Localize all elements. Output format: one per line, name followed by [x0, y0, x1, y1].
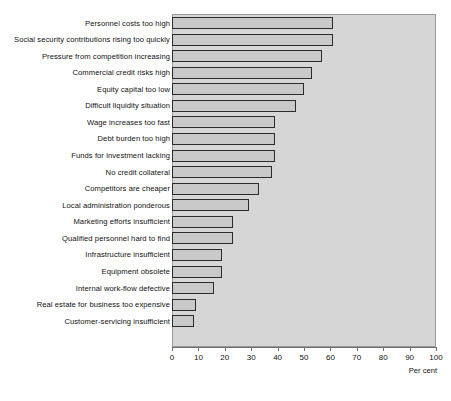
bar-category-label: Local administration ponderous: [2, 201, 170, 210]
bar-row: Wage increases too fast: [0, 114, 451, 130]
bar-row: Funds for investment lacking: [0, 148, 451, 164]
bar-category-label: Pressure from competition increasing: [2, 52, 170, 61]
bar-row: Real estate for business too expensive: [0, 297, 451, 313]
x-axis-tick-label: 40: [273, 353, 282, 362]
bar-rows: Personnel costs too highSocial security …: [0, 14, 451, 347]
x-axis-tick: [357, 347, 358, 351]
bar-row: Equity capital too low: [0, 81, 451, 97]
bar-category-label: Internal work-flow defective: [2, 284, 170, 293]
bar-chart: Personnel costs too highSocial security …: [0, 0, 451, 401]
bar-row: Pressure from competition increasing: [0, 48, 451, 64]
bar-row: Social security contributions rising too…: [0, 32, 451, 48]
bar: [172, 83, 304, 95]
bar: [172, 67, 312, 79]
bar-row: Marketing efforts insufficient: [0, 214, 451, 230]
bar-category-label: Competitors are cheaper: [2, 184, 170, 193]
bar: [172, 232, 233, 244]
bar-category-label: Infrastructure insufficient: [2, 250, 170, 259]
bar: [172, 249, 222, 261]
x-axis-tick: [383, 347, 384, 351]
bar: [172, 282, 214, 294]
x-axis-tick-label: 60: [326, 353, 335, 362]
x-axis-tick: [436, 347, 437, 351]
x-axis-tick-label: 70: [352, 353, 361, 362]
x-axis-title: Per cent: [409, 366, 437, 375]
x-axis-tick-label: 20: [220, 353, 229, 362]
bar-category-label: Debt burden too high: [2, 134, 170, 143]
bar-category-label: Customer-servicing insufficient: [2, 317, 170, 326]
x-axis-tick-label: 10: [194, 353, 203, 362]
bar-category-label: No credit collateral: [2, 168, 170, 177]
x-axis-tick-label: 90: [405, 353, 414, 362]
bar-row: Customer-servicing insufficient: [0, 313, 451, 329]
bar: [172, 17, 333, 29]
bar-row: Difficult liquidity situation: [0, 98, 451, 114]
x-axis-tick: [304, 347, 305, 351]
x-axis-tick: [251, 347, 252, 351]
bar: [172, 150, 275, 162]
bar: [172, 216, 233, 228]
bar: [172, 116, 275, 128]
bar: [172, 133, 275, 145]
bar-row: Commercial credit risks high: [0, 65, 451, 81]
x-axis-tick-label: 100: [429, 353, 442, 362]
x-axis-tick: [410, 347, 411, 351]
x-axis-tick: [172, 347, 173, 351]
bar-category-label: Funds for investment lacking: [2, 151, 170, 160]
x-axis-tick-label: 50: [300, 353, 309, 362]
bar-category-label: Commercial credit risks high: [2, 68, 170, 77]
bar-row: Competitors are cheaper: [0, 181, 451, 197]
bar-category-label: Marketing efforts insufficient: [2, 217, 170, 226]
bar-category-label: Personnel costs too high: [2, 19, 170, 28]
bar-row: Infrastructure insufficient: [0, 247, 451, 263]
bar: [172, 34, 333, 46]
bar: [172, 166, 272, 178]
bar: [172, 100, 296, 112]
bar-category-label: Social security contributions rising too…: [2, 35, 170, 44]
bar: [172, 50, 322, 62]
bar-row: Equipment obsolete: [0, 264, 451, 280]
bar-row: Personnel costs too high: [0, 15, 451, 31]
x-axis-tick: [278, 347, 279, 351]
bar-category-label: Real estate for business too expensive: [2, 300, 170, 309]
x-axis-tick-label: 80: [379, 353, 388, 362]
bar-row: Qualified personnel hard to find: [0, 230, 451, 246]
bar-row: Internal work-flow defective: [0, 280, 451, 296]
bar-category-label: Equipment obsolete: [2, 267, 170, 276]
bar-row: Debt burden too high: [0, 131, 451, 147]
bar-row: No credit collateral: [0, 164, 451, 180]
bar: [172, 183, 259, 195]
bar-category-label: Qualified personnel hard to find: [2, 234, 170, 243]
bar-category-label: Difficult liquidity situation: [2, 101, 170, 110]
x-axis-tick: [330, 347, 331, 351]
bar: [172, 199, 249, 211]
x-axis-tick-label: 0: [170, 353, 174, 362]
x-axis-tick: [198, 347, 199, 351]
bar: [172, 315, 194, 327]
bar: [172, 266, 222, 278]
x-axis-tick-label: 30: [247, 353, 256, 362]
bar: [172, 299, 196, 311]
bar-category-label: Equity capital too low: [2, 85, 170, 94]
bar-category-label: Wage increases too fast: [2, 118, 170, 127]
bar-row: Local administration ponderous: [0, 197, 451, 213]
x-axis-tick: [225, 347, 226, 351]
